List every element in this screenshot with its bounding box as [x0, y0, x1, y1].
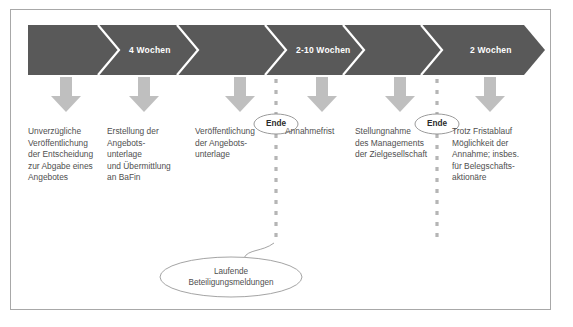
callout-line: Laufende [161, 266, 301, 277]
down-arrow-4 [307, 77, 337, 112]
down-arrow-3 [225, 77, 255, 112]
column-line: Angebotes [28, 172, 110, 184]
down-arrow-1 [51, 77, 81, 112]
column-line: Stellungnahme [355, 126, 447, 138]
down-arrow-5 [385, 77, 415, 112]
column-line: an BaFin [107, 172, 195, 184]
column-line: der Angebots- [195, 138, 271, 150]
column-line: unterlage [107, 149, 195, 161]
column-line: Annahme; insbes. [452, 149, 546, 161]
column-text-unverzuegliche-veroeffentlichung: Unverzügliche Veröffentlichung der Entsc… [28, 126, 110, 184]
column-line: Veröffentlichung [28, 138, 110, 150]
column-line: Angebots- [107, 138, 195, 150]
column-line: Trotz Fristablauf [452, 126, 546, 138]
column-line: für Belegschafts- [452, 161, 546, 173]
segment-label-2-10-wochen: 2-10 Wochen [296, 45, 350, 55]
timeline-chevron-band [28, 25, 545, 75]
column-line: Veröffentlichung [195, 126, 271, 138]
down-arrow-6 [475, 77, 505, 112]
column-text-annahmefrist: Annahmefrist [285, 126, 357, 138]
column-line: unterlage [195, 149, 271, 161]
column-line: zur Abgabe eines [28, 161, 110, 173]
column-line: Annahmefrist [285, 126, 357, 138]
column-line: Möglichkeit der [452, 138, 546, 150]
column-line: der Entscheidung [28, 149, 110, 161]
callout-text-block: Laufende Beteiligungsmeldungen [161, 266, 301, 289]
column-line: des Managements [355, 138, 447, 150]
segment-label-4-wochen: 4 Wochen [129, 45, 171, 55]
column-text-stellungnahme-management: Stellungnahme des Managements der Zielge… [355, 126, 447, 161]
column-text-erstellung-angebotsunterlage: Erstellung der Angebots- unterlage und Ü… [107, 126, 195, 184]
column-text-veroeffentlichung-angebotsunterlage: Veröffentlichung der Angebots- unterlage [195, 126, 271, 161]
diagram-stage: 4 Wochen 2-10 Wochen 2 Wochen Ende Ende … [0, 0, 573, 327]
column-text-trotz-fristablauf: Trotz Fristablauf Möglichkeit der Annahm… [452, 126, 546, 184]
callout-line: Beteiligungsmeldungen [161, 277, 301, 288]
segment-label-2-wochen: 2 Wochen [470, 45, 512, 55]
column-line: Unverzügliche [28, 126, 110, 138]
column-line: aktionäre [452, 172, 546, 184]
column-line: und Übermittlung [107, 161, 195, 173]
column-line: der Zielgesellschaft [355, 149, 447, 161]
column-line: Erstellung der [107, 126, 195, 138]
down-arrow-2 [129, 77, 159, 112]
